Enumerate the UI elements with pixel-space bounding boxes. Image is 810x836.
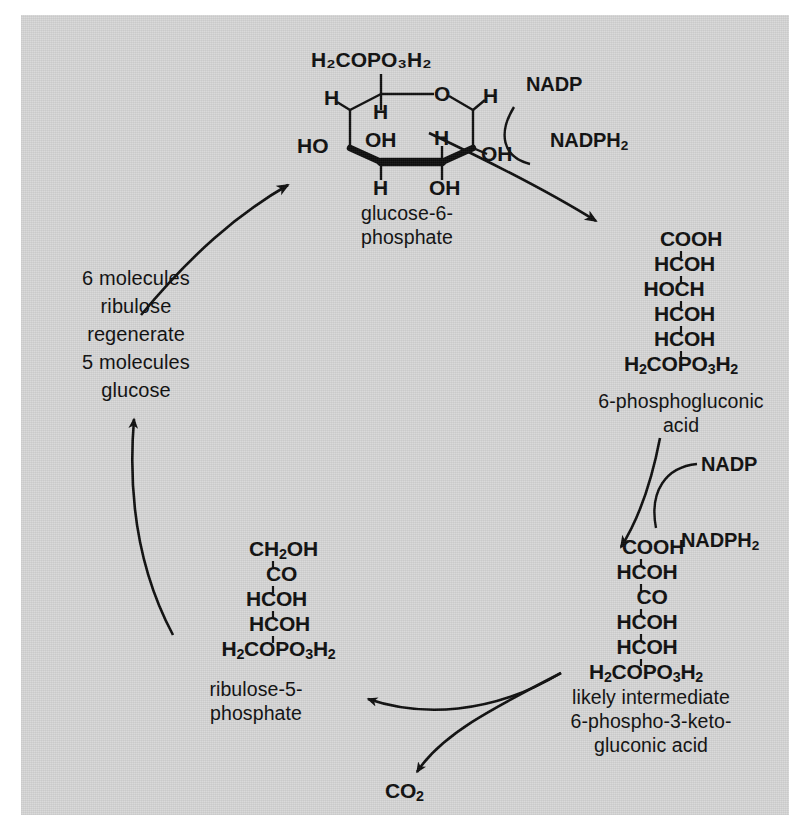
- pathway-figure-panel: H₂COPO₃H₂ O H H OH HO H OH H H OH glucos…: [21, 15, 789, 815]
- regeneration-note: 6 molecules ribulose regenerate 5 molecu…: [41, 267, 231, 407]
- regeneration-line: 6 molecules: [41, 267, 231, 295]
- regeneration-line: regenerate: [41, 323, 231, 351]
- regeneration-line: 5 molecules: [41, 351, 231, 379]
- caption-line: phosphate: [161, 703, 351, 727]
- caption-line: ribulose-5-: [161, 679, 351, 703]
- regeneration-line: ribulose: [41, 295, 231, 323]
- regeneration-line: glucose: [41, 379, 231, 407]
- ribulose-5-phosphate-caption: ribulose-5- phosphate: [161, 679, 351, 727]
- ribulose-backbone-bonds: [21, 15, 789, 815]
